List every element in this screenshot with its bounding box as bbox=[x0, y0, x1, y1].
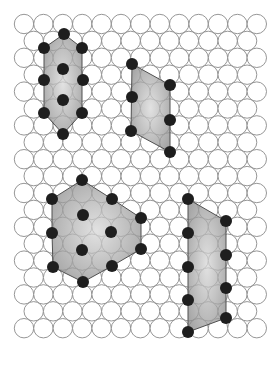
lattice-circle bbox=[82, 133, 101, 152]
lattice-circle bbox=[228, 183, 247, 202]
lattice-circle bbox=[228, 82, 247, 101]
lattice-circle bbox=[92, 14, 111, 33]
lattice-circle bbox=[92, 48, 111, 67]
site-dot bbox=[220, 282, 232, 294]
lattice-circle bbox=[247, 285, 266, 304]
lattice-circle bbox=[73, 150, 92, 169]
lattice-svg bbox=[0, 0, 279, 365]
site-dot bbox=[164, 114, 176, 126]
site-dot bbox=[135, 212, 147, 224]
lattice-circle bbox=[179, 133, 198, 152]
lattice-circle bbox=[199, 31, 218, 50]
lattice-circle bbox=[14, 285, 33, 304]
lattice-circle bbox=[102, 65, 121, 84]
lattice-circle bbox=[247, 48, 266, 67]
site-dot bbox=[38, 107, 50, 119]
site-dot bbox=[58, 28, 70, 40]
lattice-circle bbox=[150, 285, 169, 304]
lattice-circle bbox=[237, 133, 256, 152]
lattice-circle bbox=[14, 150, 33, 169]
lattice-circle bbox=[24, 234, 43, 253]
lattice-circle bbox=[140, 31, 159, 50]
lattice-circle bbox=[160, 268, 179, 287]
lattice-circle bbox=[150, 183, 169, 202]
lattice-circle bbox=[43, 302, 62, 321]
site-dot bbox=[220, 312, 232, 324]
site-dot bbox=[164, 79, 176, 91]
lattice-circle bbox=[228, 150, 247, 169]
lattice-circle bbox=[179, 99, 198, 118]
lattice-circle bbox=[228, 116, 247, 135]
lattice-figure bbox=[0, 0, 279, 365]
lattice-circle bbox=[14, 183, 33, 202]
lattice-circle bbox=[24, 302, 43, 321]
site-dot bbox=[77, 74, 89, 86]
lattice-circle bbox=[247, 150, 266, 169]
lattice-circle bbox=[228, 48, 247, 67]
lattice-circle bbox=[14, 48, 33, 67]
site-dot bbox=[182, 294, 194, 306]
lattice-circle bbox=[160, 31, 179, 50]
lattice-circle bbox=[237, 302, 256, 321]
site-dot bbox=[182, 193, 194, 205]
lattice-circle bbox=[160, 234, 179, 253]
lattice-circle bbox=[150, 48, 169, 67]
lattice-circle bbox=[199, 166, 218, 185]
lattice-circle bbox=[247, 82, 266, 101]
lattice-circle bbox=[140, 302, 159, 321]
site-dot bbox=[46, 227, 58, 239]
lattice-circle bbox=[92, 116, 111, 135]
lattice-circle bbox=[121, 302, 140, 321]
lattice-circle bbox=[92, 319, 111, 338]
lattice-circle bbox=[247, 116, 266, 135]
lattice-circle bbox=[247, 251, 266, 270]
site-dot bbox=[57, 63, 69, 75]
site-dot bbox=[76, 107, 88, 119]
lattice-circle bbox=[131, 319, 150, 338]
lattice-circle bbox=[237, 31, 256, 50]
lattice-circle bbox=[24, 166, 43, 185]
lattice-circle bbox=[53, 285, 72, 304]
lattice-circle bbox=[208, 48, 227, 67]
lattice-circle bbox=[199, 133, 218, 152]
lattice-circle bbox=[131, 14, 150, 33]
site-dot bbox=[77, 276, 89, 288]
lattice-circle bbox=[170, 14, 189, 33]
site-dot bbox=[77, 209, 89, 221]
lattice-circle bbox=[150, 251, 169, 270]
lattice-circle bbox=[14, 319, 33, 338]
lattice-circle bbox=[189, 48, 208, 67]
lattice-circle bbox=[92, 82, 111, 101]
lattice-circle bbox=[102, 31, 121, 50]
lattice-circle bbox=[53, 319, 72, 338]
lattice-circle bbox=[189, 150, 208, 169]
lattice-circle bbox=[179, 31, 198, 50]
lattice-circle bbox=[111, 150, 130, 169]
site-dot bbox=[76, 244, 88, 256]
lattice-circle bbox=[160, 200, 179, 219]
lattice-circle bbox=[14, 217, 33, 236]
site-dot bbox=[76, 174, 88, 186]
lattice-circle bbox=[43, 166, 62, 185]
lattice-circle bbox=[102, 133, 121, 152]
lattice-circle bbox=[199, 99, 218, 118]
lattice-circle bbox=[121, 166, 140, 185]
lattice-circle bbox=[208, 82, 227, 101]
site-dot bbox=[46, 193, 58, 205]
lattice-circle bbox=[111, 319, 130, 338]
lattice-circle bbox=[92, 285, 111, 304]
lattice-circle bbox=[218, 133, 237, 152]
site-dot bbox=[126, 58, 138, 70]
lattice-circle bbox=[150, 14, 169, 33]
lattice-circle bbox=[140, 268, 159, 287]
site-dot bbox=[38, 74, 50, 86]
site-dot bbox=[106, 193, 118, 205]
lattice-circle bbox=[237, 166, 256, 185]
lattice-circle bbox=[179, 166, 198, 185]
lattice-circle bbox=[111, 14, 130, 33]
lattice-circle bbox=[102, 302, 121, 321]
lattice-circle bbox=[247, 14, 266, 33]
lattice-circle bbox=[199, 65, 218, 84]
lattice-circle bbox=[237, 65, 256, 84]
lattice-circle bbox=[131, 183, 150, 202]
